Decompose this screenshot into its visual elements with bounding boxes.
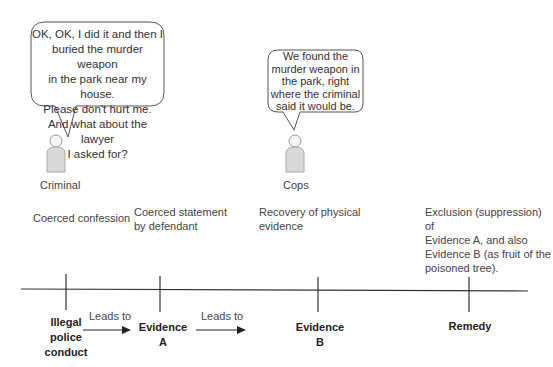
caption-line: poisoned tree). xyxy=(425,261,553,275)
node-evidence-a: Evidence A xyxy=(133,320,193,350)
arrow-label-2: Leads to xyxy=(201,310,243,323)
node-line: B xyxy=(290,335,350,350)
quote-line: said it would be. xyxy=(268,100,363,113)
caption-coerced-confession: Coerced confession xyxy=(33,211,130,225)
quote-line: buried the murder weapon xyxy=(31,42,164,72)
node-line: Illegal xyxy=(36,315,96,330)
node-line: Evidence xyxy=(133,320,193,335)
caption-line: Coerced statement xyxy=(134,205,227,219)
node-remedy: Remedy xyxy=(440,319,500,334)
quote-line: murder weapon in xyxy=(268,63,363,76)
arrow-label-1: Leads to xyxy=(89,310,131,323)
caption-line: Evidence B (as fruit of the xyxy=(425,247,553,261)
caption-line: Exclusion (suppression) of xyxy=(425,205,553,233)
caption-line: Coerced confession xyxy=(33,211,130,225)
quote-line: where the criminal xyxy=(268,88,363,101)
caption-coerced-statement: Coerced statement by defendant xyxy=(134,205,227,233)
caption-recovery: Recovery of physical evidence xyxy=(259,205,361,233)
quote-line: the park, right xyxy=(268,75,363,88)
node-evidence-b: Evidence B xyxy=(290,320,350,350)
caption-line: by defendant xyxy=(134,219,227,233)
caption-exclusion: Exclusion (suppression) of Evidence A, a… xyxy=(425,205,553,275)
caption-line: Evidence A, and also xyxy=(425,233,553,247)
cops-person-icon xyxy=(286,135,304,172)
cops-label: Cops xyxy=(283,179,309,192)
quote-line: Please don't hurt me. xyxy=(31,102,164,117)
arrow-2 xyxy=(196,326,246,334)
criminal-label: Criminal xyxy=(40,179,80,192)
caption-line: Recovery of physical xyxy=(259,205,361,219)
quote-line: in the park near my house. xyxy=(31,72,164,102)
caption-line: evidence xyxy=(259,219,361,233)
quote-line: And what about the lawyer xyxy=(31,117,164,147)
node-line: A xyxy=(133,335,193,350)
node-line: police xyxy=(36,330,96,345)
node-line: Remedy xyxy=(440,319,500,334)
quote-line: I asked for? xyxy=(31,147,164,162)
node-line: Evidence xyxy=(290,320,350,335)
node-illegal-police-conduct: Illegal police conduct xyxy=(36,315,96,360)
criminal-quote: OK, OK, I did it and then I buried the m… xyxy=(31,27,164,162)
quote-line: OK, OK, I did it and then I xyxy=(31,27,164,42)
cops-quote: We found the murder weapon in the park, … xyxy=(268,50,363,113)
timeline-axis xyxy=(21,289,528,291)
node-line: conduct xyxy=(36,345,96,360)
quote-line: We found the xyxy=(268,50,363,63)
